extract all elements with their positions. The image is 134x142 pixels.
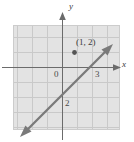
graph-canvas <box>0 0 134 142</box>
y-axis-arrowhead <box>59 12 66 20</box>
y-axis-label: y <box>69 2 73 11</box>
coordinate-plane-figure: y x 0 2 3 (1, 2) <box>0 0 134 142</box>
plot-background <box>13 25 120 130</box>
y-intercept-label: 2 <box>65 99 70 108</box>
x-axis-label: x <box>122 60 126 69</box>
point-coordinate-label: (1, 2) <box>76 38 96 47</box>
plotted-point <box>72 50 77 55</box>
x-intercept-label: 3 <box>95 70 100 79</box>
origin-label: 0 <box>54 70 59 79</box>
